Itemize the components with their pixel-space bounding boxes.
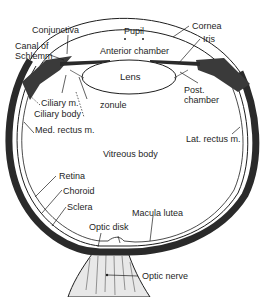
label-anterior-chamber: Anterior chamber (100, 46, 169, 56)
label-ciliary-muscle: Ciliary m. (41, 98, 79, 108)
optic-nerve-shape (68, 250, 150, 297)
zonule-fiber (70, 70, 84, 78)
label-ciliary-body: Ciliary body (34, 109, 81, 119)
label-pupil: Pupil (124, 26, 144, 36)
label-sclera: Sclera (67, 202, 93, 212)
label-canal-of-schlemm-line1: Canal of (15, 41, 49, 51)
label-choroid: Choroid (63, 186, 95, 196)
label-optic-disk: Optic disk (89, 222, 129, 232)
optic-nerve-marker (106, 274, 108, 276)
label-canal-of-schlemm-line2: Schlemm (15, 51, 53, 61)
zonule-fiber (174, 70, 188, 78)
label-post-chamber-line2: chamber (184, 95, 219, 105)
pupil-marker (142, 38, 144, 40)
label-lens: Lens (120, 72, 141, 82)
label-med-rectus: Med. rectus m. (35, 125, 95, 135)
label-cornea: Cornea (192, 21, 222, 31)
label-lat-rectus: Lat. rectus m. (186, 134, 241, 144)
label-vitreous-body: Vitreous body (103, 149, 158, 159)
label-iris: Iris (203, 34, 215, 44)
label-conjunctiva: Conjunctiva (32, 25, 79, 35)
label-optic-nerve: Optic nerve (142, 271, 188, 281)
label-post-chamber-line1: Post. (184, 85, 205, 95)
label-retina: Retina (59, 171, 85, 181)
label-zonule: zonule (100, 100, 127, 110)
label-macula-lutea: Macula lutea (132, 208, 183, 218)
pupil-marker (124, 38, 126, 40)
